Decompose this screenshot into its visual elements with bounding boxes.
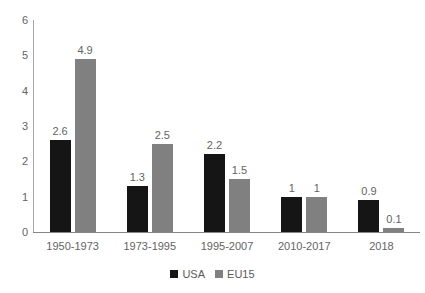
bar-slot-usa: 2.6: [50, 20, 71, 232]
bar-usa[interactable]: [358, 200, 379, 232]
bar-eu15[interactable]: [229, 179, 250, 232]
y-axis-tick-labels: 6 5 4 3 2 1 0: [0, 0, 28, 293]
x-label-4: 2018: [343, 238, 420, 256]
legend-label-usa: USA: [182, 269, 205, 280]
bar-group: 2.6 4.9: [34, 20, 111, 232]
x-label-0: 1950-1973: [34, 238, 111, 256]
bar-group: 1 1: [266, 20, 343, 232]
y-tick-1: 1: [4, 192, 28, 203]
bar-group: 1.3 2.5: [111, 20, 188, 232]
bar-eu15[interactable]: [152, 144, 173, 232]
y-tick-2: 2: [4, 156, 28, 167]
bar-usa[interactable]: [127, 186, 148, 232]
bar-group: 0.9 0.1: [343, 20, 420, 232]
chart-legend: USA EU15: [0, 266, 425, 282]
bar-value-label: 0.9: [361, 186, 376, 197]
legend-swatch-icon-eu15: [215, 270, 223, 278]
legend-label-eu15: EU15: [227, 269, 255, 280]
x-axis-line: [33, 232, 420, 233]
bar-value-label: 1.3: [130, 172, 145, 183]
y-tick-5: 5: [4, 50, 28, 61]
bar-value-label: 2.5: [155, 130, 170, 141]
bar-value-label: 0.1: [386, 214, 401, 225]
x-label-3: 2010-2017: [266, 238, 343, 256]
legend-entry-eu15[interactable]: EU15: [215, 269, 255, 280]
bar-value-label: 4.9: [77, 45, 92, 56]
bar-groups: 2.6 4.9 1.3 2.5 2.2 1.5: [34, 20, 420, 232]
bar-slot-usa: 1.3: [127, 20, 148, 232]
y-tick-6: 6: [4, 15, 28, 26]
legend-swatch-icon-usa: [170, 270, 178, 278]
y-tick-4: 4: [4, 86, 28, 97]
y-tick-3: 3: [4, 121, 28, 132]
bar-slot-eu15: 2.5: [152, 20, 173, 232]
bar-eu15[interactable]: [75, 59, 96, 232]
bar-value-label: 1: [289, 183, 295, 194]
bar-slot-eu15: 1.5: [229, 20, 250, 232]
bar-value-label: 2.2: [207, 140, 222, 151]
bar-value-label: 1.5: [232, 165, 247, 176]
bar-group: 2.2 1.5: [188, 20, 265, 232]
bar-value-label: 1: [314, 183, 320, 194]
bar-usa[interactable]: [50, 140, 71, 232]
y-tick-0: 0: [4, 227, 28, 238]
bar-slot-usa: 2.2: [204, 20, 225, 232]
x-label-2: 1995-2007: [188, 238, 265, 256]
bar-slot-eu15: 1: [306, 20, 327, 232]
legend-entry-usa[interactable]: USA: [170, 269, 205, 280]
bar-slot-eu15: 0.1: [383, 20, 404, 232]
bar-slot-usa: 0.9: [358, 20, 379, 232]
bar-slot-eu15: 4.9: [75, 20, 96, 232]
bar-chart: 6 5 4 3 2 1 0 2.6 4.9 1.3 2.5: [0, 0, 425, 293]
x-label-1: 1973-1995: [111, 238, 188, 256]
bar-value-label: 2.6: [52, 126, 67, 137]
x-axis-category-labels: 1950-1973 1973-1995 1995-2007 2010-2017 …: [34, 238, 420, 256]
bar-slot-usa: 1: [281, 20, 302, 232]
bar-usa[interactable]: [281, 197, 302, 232]
bar-eu15[interactable]: [306, 197, 327, 232]
bar-eu15[interactable]: [383, 228, 404, 232]
bar-usa[interactable]: [204, 154, 225, 232]
